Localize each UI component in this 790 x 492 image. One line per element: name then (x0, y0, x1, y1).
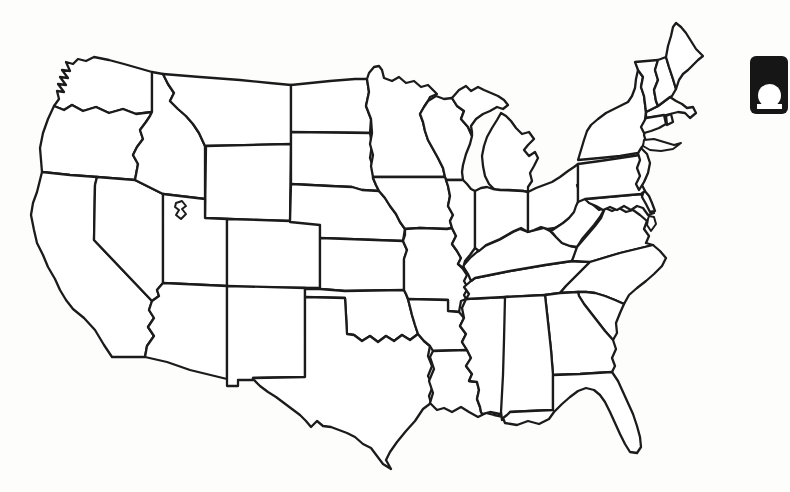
us-map-svg: WashingtonOregonCaliforniaNevadaIdahoMon… (0, 0, 790, 492)
state-sd: South Dakota (291, 132, 379, 191)
state-nd: North Dakota (291, 79, 371, 133)
state-al: Alabama (501, 295, 553, 420)
state-ks: Kansas (320, 238, 407, 291)
page: WashingtonOregonCaliforniaNevadaIdahoMon… (0, 0, 790, 492)
slide-marker-icon (750, 56, 788, 114)
state-or: Oregon (40, 105, 152, 180)
state-ny: New York (578, 70, 646, 160)
state-wy: Wyoming (205, 144, 291, 221)
state-ri: Rhode Island (666, 114, 673, 125)
state-nm: New Mexico (227, 286, 305, 386)
us-map: WashingtonOregonCaliforniaNevadaIdahoMon… (0, 0, 790, 492)
long-island: Long Island (New York) (643, 139, 681, 151)
state-pa: Pennsylvania (578, 155, 646, 202)
bar-glyph-icon (757, 104, 782, 109)
state-co: Colorado (227, 219, 320, 288)
state-wa: Washington (54, 57, 152, 114)
virginia-eastern-shore: Eastern Shore peninsula (Virginia) (647, 216, 656, 231)
state-az: Arizona (145, 283, 227, 379)
state-nj: New Jersey (636, 148, 650, 190)
